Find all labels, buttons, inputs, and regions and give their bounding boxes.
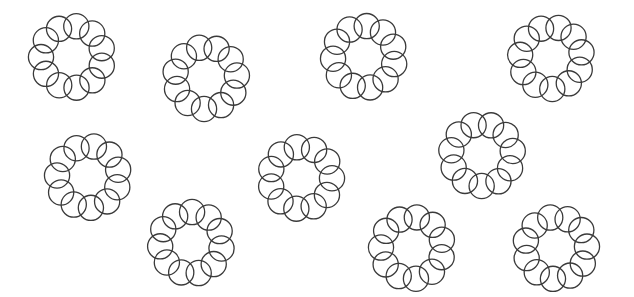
rosette-petal-circle — [187, 35, 212, 60]
rosette-petal-circle — [64, 136, 89, 161]
rosette-petal-circle — [337, 17, 362, 42]
rosette-petal-circle — [528, 16, 553, 41]
rosette-petal-circle — [461, 113, 486, 138]
rosette-petal-circle — [387, 207, 412, 232]
figure-canvas: Rosette pattern array Eleven ring-of-cir… — [0, 0, 634, 297]
rosette-petal-circle — [284, 135, 309, 160]
rosette-petal-circle — [46, 16, 71, 41]
rosette-petal-circle — [163, 204, 188, 229]
rosette-petal-circle — [538, 205, 563, 230]
rosette-diagram: Rosette pattern array Eleven ring-of-cir… — [0, 0, 634, 297]
